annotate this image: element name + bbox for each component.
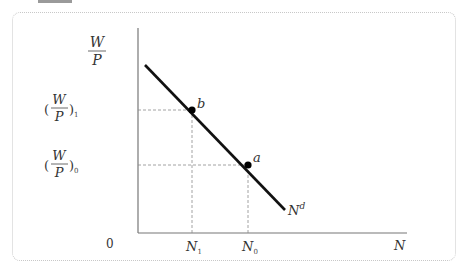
point-b-label: b [197, 96, 205, 111]
curve-label-base: N [287, 203, 300, 218]
x-tick-n0-base: N [241, 239, 254, 254]
origin-label: 0 [106, 237, 114, 251]
x-tick-n0: N0 [241, 239, 258, 256]
y-tick-0-open-paren: ( [44, 158, 49, 173]
y-tick-0-den: P [54, 165, 64, 180]
y-axis-label-num: W [90, 34, 106, 50]
point-b [188, 106, 195, 113]
y-tick-0-sub: 0 [74, 167, 78, 175]
x-tick-n1: N1 [185, 239, 202, 256]
point-a [244, 161, 251, 168]
x-tick-n1-base: N [185, 239, 198, 254]
point-a-label: a [253, 150, 261, 165]
x-tick-n0-sub: 0 [253, 248, 257, 256]
x-tick-n1-sub: 1 [197, 248, 201, 256]
y-tick-1-num: W [52, 92, 67, 107]
labor-demand-line [145, 65, 285, 210]
labor-demand-diagram: b a Nd W P ( W P ) 1 ( W P ) 0 0 N1 N0 N [0, 0, 471, 275]
y-axis-label-den: P [91, 52, 102, 68]
curve-label-sup: d [299, 201, 305, 211]
y-tick-1-den: P [54, 109, 64, 124]
x-axis-label: N [393, 238, 406, 253]
y-tick-1-sub: 1 [74, 111, 78, 119]
curve-label: Nd [287, 201, 305, 218]
y-tick-0-num: W [52, 148, 67, 163]
y-tick-1-open-paren: ( [44, 102, 49, 117]
